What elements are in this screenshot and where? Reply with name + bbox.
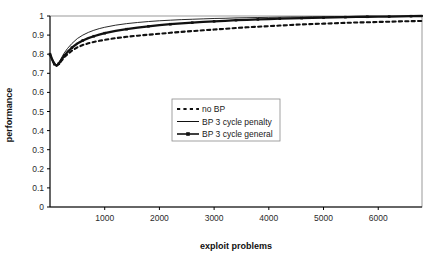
series-marker-2	[71, 46, 74, 49]
legend-label-2: BP 3 cycle general	[202, 129, 273, 139]
series-marker-2	[344, 16, 347, 19]
series-marker-2	[125, 28, 128, 31]
series-marker-2	[169, 23, 172, 26]
x-tick-label: 4000	[259, 213, 278, 223]
performance-line-chart: 00.10.20.30.40.50.60.70.80.91 1000200030…	[0, 0, 438, 263]
series-marker-2	[213, 20, 216, 23]
series-marker-2	[103, 32, 106, 35]
series-marker-2	[49, 53, 52, 56]
chart-legend: no BPBP 3 cycle penaltyBP 3 cycle genera…	[172, 99, 280, 141]
legend-label-1: BP 3 cycle penalty	[202, 117, 273, 127]
x-tick-label: 5000	[314, 213, 333, 223]
series-marker-2	[63, 54, 66, 57]
y-tick-label: 0.8	[32, 49, 44, 59]
y-tick-label: 0	[39, 202, 44, 212]
series-marker-2	[257, 18, 260, 21]
series-marker-2	[388, 15, 391, 18]
series-marker-2	[278, 17, 281, 20]
series-marker-2	[410, 15, 413, 18]
legend-marker-2	[186, 132, 190, 136]
legend-label-0: no BP	[202, 104, 225, 114]
series-marker-2	[92, 35, 95, 38]
y-tick-label: 0.1	[32, 183, 44, 193]
x-tick-label: 3000	[205, 213, 224, 223]
y-tick-label: 0.2	[32, 164, 44, 174]
x-tick-label: 6000	[369, 213, 388, 223]
y-tick-label: 0.4	[32, 126, 44, 136]
series-marker-2	[82, 39, 85, 42]
y-tick-label: 0.3	[32, 145, 44, 155]
chart-container: 00.10.20.30.40.50.60.70.80.91 1000200030…	[0, 0, 438, 263]
series-marker-2	[147, 25, 150, 28]
series-marker-2	[300, 17, 303, 20]
series-marker-2	[322, 16, 325, 19]
x-tick-label: 1000	[95, 213, 114, 223]
series-marker-2	[53, 63, 56, 66]
series-marker-2	[366, 15, 369, 18]
y-tick-label: 0.5	[32, 107, 44, 117]
y-axis-title: performance	[4, 88, 14, 143]
series-marker-2	[191, 21, 194, 24]
y-tick-label: 1	[39, 11, 44, 21]
x-tick-label: 2000	[150, 213, 169, 223]
series-marker-2	[57, 62, 60, 65]
y-tick-label: 0.6	[32, 87, 44, 97]
x-axis-title: exploit problems	[200, 241, 272, 251]
y-tick-label: 0.7	[32, 68, 44, 78]
y-tick-label: 0.9	[32, 30, 44, 40]
series-marker-2	[235, 19, 238, 22]
